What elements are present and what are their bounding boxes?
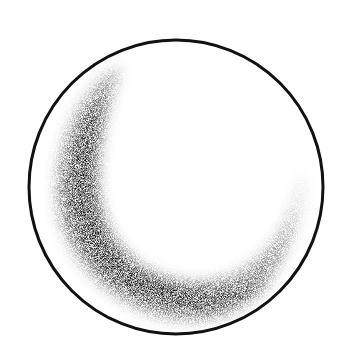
sphere-drawing (0, 0, 351, 362)
drawing-canvas: Pencil drawing of a sphere outline with … (0, 0, 351, 362)
crescent-shading (57, 66, 304, 320)
